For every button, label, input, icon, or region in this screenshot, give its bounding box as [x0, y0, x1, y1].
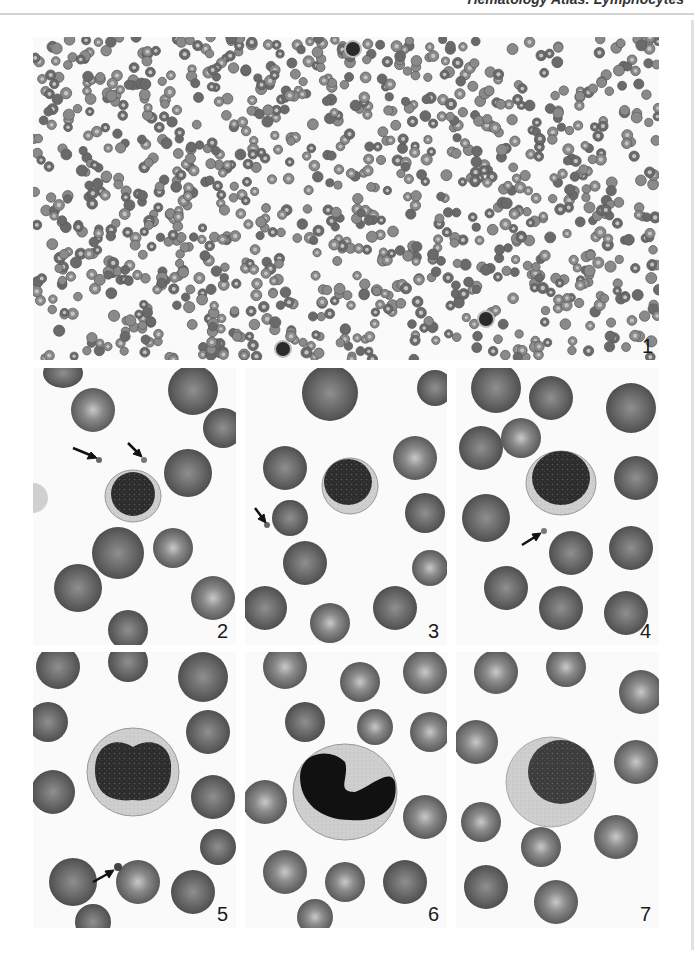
figure-panel-2: 2 — [33, 368, 236, 645]
lymphocyte-micrograph — [33, 652, 236, 928]
arrow-icon — [255, 508, 266, 523]
header-rule — [0, 13, 694, 15]
panel-number: 5 — [217, 904, 228, 924]
lymphocyte-micrograph — [245, 368, 447, 645]
lymphocyte-micrograph — [245, 652, 447, 928]
figure-panel-1: 1 — [33, 37, 659, 360]
lymphocyte-micrograph — [456, 368, 659, 645]
panel-number: 6 — [428, 904, 439, 924]
figure-panel-3: 3 — [245, 368, 447, 645]
blood-smear-low-power — [33, 37, 659, 360]
panel-number: 4 — [640, 621, 651, 641]
panel-number: 1 — [642, 336, 653, 356]
panel-number: 7 — [640, 904, 651, 924]
figure-panel-4: 4 — [456, 368, 659, 645]
running-head: Hematology Atlas: Lymphocytes — [467, 0, 684, 7]
figure-panel-6: 6 — [245, 652, 447, 928]
arrow-icon — [522, 533, 541, 545]
figure-panel-7: 7 — [456, 652, 659, 928]
lymphocyte-micrograph — [33, 368, 236, 645]
lymphocyte-micrograph — [456, 652, 659, 928]
figure-panel-5: 5 — [33, 652, 236, 928]
panel-number: 3 — [428, 621, 439, 641]
arrow-icon — [73, 443, 142, 459]
panel-number: 2 — [217, 621, 228, 641]
